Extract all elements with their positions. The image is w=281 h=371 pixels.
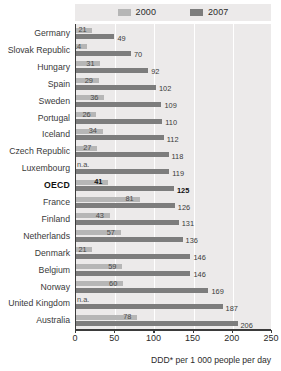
chart-row: 36109 bbox=[76, 93, 271, 110]
category-label: OECD bbox=[44, 177, 70, 194]
category-label-row: Sweden bbox=[0, 93, 73, 110]
bar-2007 bbox=[76, 220, 179, 225]
category-axis-labels: GermanySlovak RepublicHungarySpainSweden… bbox=[0, 24, 73, 329]
bar-2007 bbox=[76, 34, 114, 39]
chart-plot-area: 2149147031922910236109261103411227118n.a… bbox=[75, 24, 271, 329]
bar-2007 bbox=[76, 51, 131, 56]
bar-2000 bbox=[76, 213, 110, 218]
bar-value-2000: 60 bbox=[109, 280, 117, 287]
category-label: Luxembourg bbox=[22, 160, 70, 177]
bar-value-2000: 27 bbox=[83, 144, 91, 151]
legend-label-2007: 2007 bbox=[208, 8, 228, 17]
bar-value-2000: 21 bbox=[78, 26, 86, 33]
category-label-row: Iceland bbox=[0, 126, 73, 143]
bar-2007 bbox=[76, 203, 175, 208]
bar-2007 bbox=[76, 237, 183, 242]
category-label: France bbox=[43, 194, 70, 211]
category-label: Iceland bbox=[42, 126, 70, 143]
chart-row: 43131 bbox=[76, 211, 271, 228]
bar-value-2007: 125 bbox=[177, 187, 189, 194]
bar-value-2007: 49 bbox=[117, 35, 125, 42]
category-label-row: Portugal bbox=[0, 110, 73, 127]
bar-2000 bbox=[76, 180, 108, 185]
category-label: Spain bbox=[48, 76, 70, 93]
chart-plot-wrapper: GermanySlovak RepublicHungarySpainSweden… bbox=[0, 24, 281, 338]
category-tick-mark bbox=[75, 59, 76, 60]
category-tick-mark bbox=[75, 295, 76, 296]
axis-tick-label: 50 bbox=[109, 334, 119, 343]
category-tick-mark bbox=[75, 177, 76, 178]
category-tick-mark bbox=[75, 211, 76, 212]
bar-value-2000: n.a. bbox=[77, 296, 89, 303]
chart-row: 57136 bbox=[76, 228, 271, 245]
bar-2007 bbox=[76, 321, 238, 326]
category-label-row: Belgium bbox=[0, 262, 73, 279]
bar-value-2000: 41 bbox=[94, 178, 102, 185]
category-tick-mark bbox=[75, 110, 76, 111]
axis-tick-label: 150 bbox=[185, 334, 200, 343]
category-label-row: Luxembourg bbox=[0, 160, 73, 177]
category-tick-mark bbox=[75, 76, 76, 77]
category-label-row: Slovak Republic bbox=[0, 42, 73, 59]
category-label: Sweden bbox=[39, 93, 70, 110]
chart-row: n.a.119 bbox=[76, 160, 271, 177]
legend-swatch-2000-icon bbox=[118, 9, 131, 16]
category-label: Portugal bbox=[38, 110, 70, 127]
category-label-row: Denmark bbox=[0, 245, 73, 262]
bar-value-2000: 34 bbox=[89, 127, 97, 134]
value-axis-title: DDD* per 1 000 people per day bbox=[151, 355, 271, 365]
axis-tick-label: 250 bbox=[263, 334, 278, 343]
category-label-row: France bbox=[0, 194, 73, 211]
chart-row: n.a.187 bbox=[76, 295, 271, 312]
category-tick-mark bbox=[75, 93, 76, 94]
bar-2007 bbox=[76, 152, 169, 157]
category-tick-mark bbox=[75, 143, 76, 144]
category-label: Netherlands bbox=[23, 228, 70, 245]
bar-value-2007: 110 bbox=[165, 119, 177, 126]
bar-value-2000: 36 bbox=[90, 94, 98, 101]
chart-row: 26110 bbox=[76, 110, 271, 127]
bar-2007 bbox=[76, 119, 162, 124]
chart-row: 81126 bbox=[76, 194, 271, 211]
bar-value-2007: 70 bbox=[134, 51, 142, 58]
chart-row: 78206 bbox=[76, 312, 271, 329]
legend-swatch-2007-icon bbox=[190, 9, 203, 16]
bar-2007 bbox=[76, 68, 148, 73]
category-label-row: OECD bbox=[0, 177, 73, 194]
category-label-row: Germany bbox=[0, 25, 73, 42]
bar-value-2007: 187 bbox=[226, 305, 238, 312]
chart-row: 2149 bbox=[76, 25, 271, 42]
category-tick-mark bbox=[75, 228, 76, 229]
category-label: Belgium bbox=[39, 262, 70, 279]
category-label: Denmark bbox=[35, 245, 70, 262]
category-label: Czech Republic bbox=[9, 143, 70, 160]
chart-row: 59146 bbox=[76, 262, 271, 279]
bar-value-2000: 31 bbox=[86, 60, 94, 67]
bar-value-2007: 92 bbox=[151, 68, 159, 75]
axis-tick-label: 100 bbox=[146, 334, 161, 343]
chart-row: 29102 bbox=[76, 76, 271, 93]
category-tick-mark bbox=[75, 194, 76, 195]
category-label-row: Czech Republic bbox=[0, 143, 73, 160]
category-label: Australia bbox=[36, 312, 70, 329]
category-label: Slovak Republic bbox=[8, 42, 70, 59]
bar-2007 bbox=[76, 85, 156, 90]
category-tick-mark bbox=[75, 279, 76, 280]
chart-row: 1470 bbox=[76, 42, 271, 59]
category-tick-mark bbox=[75, 25, 76, 26]
value-axis-ticks: 050100150200250 bbox=[0, 330, 281, 344]
bar-value-2007: 206 bbox=[241, 322, 253, 329]
bar-2007 bbox=[76, 135, 164, 140]
category-label: Norway bbox=[41, 279, 70, 296]
category-tick-mark bbox=[75, 160, 76, 161]
axis-tick-label: 200 bbox=[224, 334, 239, 343]
bar-value-2007: 146 bbox=[193, 271, 205, 278]
bar-value-2000: n.a. bbox=[77, 161, 89, 168]
category-tick-mark bbox=[75, 262, 76, 263]
bar-value-2007: 126 bbox=[178, 204, 190, 211]
category-label-row: Norway bbox=[0, 279, 73, 296]
chart-row: 3192 bbox=[76, 59, 271, 76]
bar-value-2000: 59 bbox=[108, 263, 116, 270]
category-label: Hungary bbox=[37, 59, 70, 76]
category-label: Finland bbox=[42, 211, 71, 228]
